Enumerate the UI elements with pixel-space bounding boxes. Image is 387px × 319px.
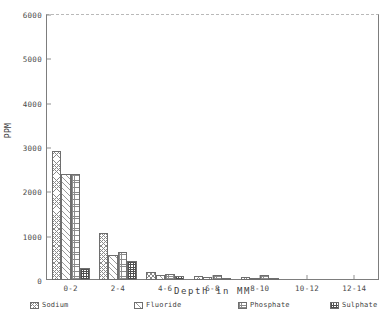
bar bbox=[222, 278, 231, 280]
y-axis-tick-label: 3000 bbox=[23, 144, 47, 153]
legend-swatch-icon bbox=[134, 302, 143, 309]
legend-item-fluoride[interactable]: Fluoride bbox=[134, 301, 181, 309]
bar bbox=[156, 275, 165, 280]
bar bbox=[61, 174, 70, 280]
bar bbox=[127, 261, 136, 280]
bar bbox=[260, 275, 269, 280]
bar-chart: PPM 0100020003000400050006000 0-22-44-66… bbox=[0, 0, 387, 319]
bar bbox=[108, 255, 117, 280]
y-axis-tick-label: 6000 bbox=[23, 11, 47, 20]
bar bbox=[118, 252, 127, 280]
bar bbox=[269, 278, 278, 280]
legend-label: Fluoride bbox=[146, 301, 181, 309]
bar bbox=[194, 276, 203, 280]
bar bbox=[241, 277, 250, 280]
bar bbox=[203, 277, 212, 280]
y-axis-tick-label: 5000 bbox=[23, 55, 47, 64]
bar bbox=[213, 275, 222, 280]
legend-label: Sodium bbox=[42, 301, 69, 309]
bar bbox=[71, 174, 80, 280]
bar bbox=[165, 274, 174, 280]
legend-swatch-icon bbox=[30, 302, 39, 309]
legend-swatch-icon bbox=[330, 302, 339, 309]
x-axis-title: Depth in MM bbox=[46, 286, 379, 296]
bar-series-layer bbox=[47, 14, 378, 280]
bar bbox=[146, 272, 155, 280]
y-axis-tick-label: 0 bbox=[37, 277, 47, 286]
bar bbox=[99, 233, 108, 280]
bar bbox=[80, 268, 89, 280]
bar bbox=[250, 278, 259, 280]
bar bbox=[52, 151, 61, 280]
y-axis-tick-label: 2000 bbox=[23, 188, 47, 197]
legend-label: Phosphate bbox=[250, 301, 290, 309]
legend-item-phosphate[interactable]: Phosphate bbox=[238, 301, 290, 309]
legend-item-sodium[interactable]: Sodium bbox=[30, 301, 69, 309]
legend-swatch-icon bbox=[238, 302, 247, 309]
legend-item-sulphate[interactable]: Sulphate bbox=[330, 301, 377, 309]
chart-legend: SodiumFluoridePhosphateSulphate bbox=[30, 301, 382, 313]
y-axis-title: PPM bbox=[4, 107, 13, 155]
y-axis-tick-label: 4000 bbox=[23, 99, 47, 108]
y-axis-tick-label: 1000 bbox=[23, 232, 47, 241]
bar bbox=[175, 276, 184, 280]
legend-label: Sulphate bbox=[342, 301, 377, 309]
